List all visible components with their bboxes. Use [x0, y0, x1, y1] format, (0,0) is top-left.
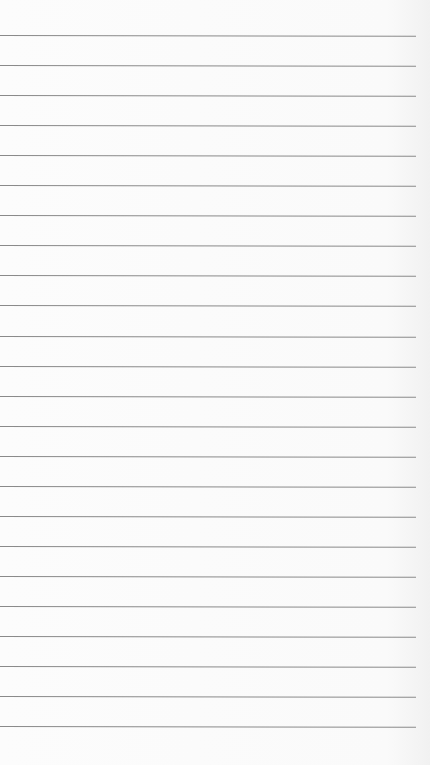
- ruled-line: [0, 576, 416, 578]
- ruled-line: [0, 275, 416, 277]
- ruled-line: [0, 65, 416, 67]
- ruled-line: [0, 546, 416, 548]
- ruled-line: [0, 396, 416, 398]
- lined-paper: [0, 0, 430, 765]
- ruled-line: [0, 155, 416, 157]
- ruled-line: [0, 606, 416, 608]
- ruled-line: [0, 366, 416, 368]
- ruled-line: [0, 35, 416, 37]
- ruled-line: [0, 95, 416, 97]
- ruled-line: [0, 215, 416, 217]
- ruled-line: [0, 486, 416, 488]
- ruled-line: [0, 666, 416, 668]
- ruled-line: [0, 185, 416, 187]
- ruled-line: [0, 636, 416, 638]
- ruled-line: [0, 456, 416, 458]
- ruled-line: [0, 696, 416, 698]
- ruled-line: [0, 125, 416, 127]
- ruled-line: [0, 245, 416, 247]
- ruled-line: [0, 426, 416, 428]
- ruled-line: [0, 336, 416, 338]
- ruled-line: [0, 305, 416, 307]
- ruled-line: [0, 516, 416, 518]
- ruled-line: [0, 726, 416, 728]
